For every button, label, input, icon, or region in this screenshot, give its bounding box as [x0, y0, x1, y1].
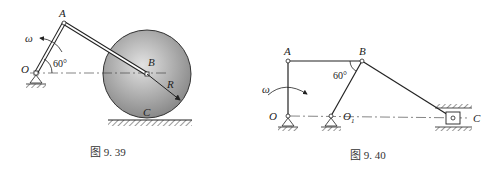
label-c-2: C	[473, 112, 481, 124]
label-b-2: B	[359, 45, 366, 57]
pivot-o1-support	[321, 114, 341, 131]
label-b: B	[148, 56, 155, 68]
label-o: O	[21, 63, 29, 75]
rod-bc	[362, 61, 453, 118]
label-o-2: O	[269, 110, 277, 122]
label-angle: 60°	[53, 58, 67, 69]
label-c: C	[143, 106, 151, 118]
joint-c	[451, 116, 455, 120]
label-o1-main: O	[343, 110, 351, 122]
pivot-o-support	[26, 71, 46, 88]
caption-9-39: 图 9. 39	[90, 146, 126, 158]
figure-9-39: A O ω 60° B R C 图 9. 39	[21, 7, 192, 158]
label-o1-sub: 1	[351, 117, 355, 125]
joint-a	[62, 21, 66, 25]
label-omega: ω	[25, 32, 33, 44]
label-r: R	[166, 78, 174, 90]
figures-canvas: A O ω 60° B R C 图 9. 39	[0, 0, 495, 171]
label-a-2: A	[283, 45, 291, 57]
center-line-2	[290, 116, 470, 118]
label-o1: O1	[343, 110, 354, 125]
pivot-o-support-2	[278, 114, 298, 131]
label-a: A	[58, 7, 66, 19]
angle-arc-2	[350, 61, 356, 71]
joint-b-2	[360, 59, 364, 63]
angle-arc	[44, 59, 52, 73]
label-angle-2: 60°	[333, 70, 347, 81]
ground-hatch	[108, 120, 192, 126]
figure-9-40: A B 60° ω O O1 C 图 9. 40	[262, 45, 481, 161]
label-omega-2: ω	[262, 83, 270, 95]
caption-9-40: 图 9. 40	[350, 149, 386, 161]
joint-a-2	[286, 59, 290, 63]
